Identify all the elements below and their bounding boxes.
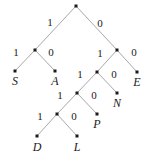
leaf-node-dot [136, 71, 139, 74]
tree-edge [35, 6, 76, 50]
leaf-symbol-label: A [51, 75, 58, 87]
edge-bit-label: 1 [37, 111, 43, 122]
huffman-tree-figure: 101010101010 SAENPDL [0, 0, 151, 162]
internal-node-dot [34, 49, 37, 52]
leaf-symbol-label: E [133, 76, 140, 88]
edge-bit-label: 0 [91, 90, 97, 101]
edge-bit-label: 0 [71, 111, 77, 122]
leaf-node-dot [116, 92, 119, 95]
edge-bit-label: 1 [57, 90, 63, 101]
leaf-node-dot [14, 70, 17, 73]
leaf-node-dot [36, 135, 39, 138]
edge-bit-label: 0 [48, 47, 54, 58]
internal-node-dot [116, 49, 119, 52]
leaf-node-dot [96, 113, 99, 116]
edge-bit-label: 0 [97, 18, 103, 29]
edge-bit-label: 1 [47, 17, 53, 28]
internal-node-dot [75, 5, 78, 8]
leaf-symbol-label: D [33, 141, 42, 153]
internal-node-dot [76, 92, 79, 95]
internal-node-dot [96, 71, 99, 74]
edge-bit-label: 0 [131, 47, 137, 58]
leaf-symbol-label: L [74, 141, 81, 153]
leaf-symbol-label: N [113, 97, 121, 109]
leaf-symbol-label: P [93, 118, 100, 130]
edge-bit-label: 1 [77, 69, 83, 80]
edge-bit-label: 1 [97, 48, 103, 59]
edge-bit-label: 0 [111, 69, 117, 80]
leaf-node-dot [54, 70, 57, 73]
edge-bit-label: 1 [13, 47, 19, 58]
tree-edges-svg [0, 0, 151, 162]
internal-node-dot [56, 113, 59, 116]
leaf-node-dot [76, 135, 79, 138]
leaf-symbol-label: S [12, 75, 18, 87]
